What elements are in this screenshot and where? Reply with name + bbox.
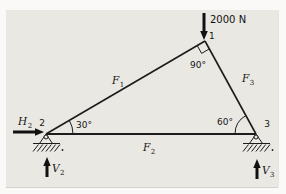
reaction-v2-arrow: [43, 157, 50, 177]
reaction-h2-label: H2: [17, 115, 32, 130]
ground-hatching-right: [243, 145, 270, 152]
ground-hatching-left: [33, 145, 60, 152]
reaction-v3-arrow: [253, 159, 260, 179]
node-3-label: 3: [264, 119, 270, 129]
reaction-v3-label: V3: [262, 164, 275, 179]
member-f3-label: F3: [241, 72, 254, 87]
angle-60-arc: [235, 116, 246, 134]
node-2-label: 2: [39, 118, 45, 128]
member-f1-label: F1: [111, 74, 124, 89]
member-f2-label: F2: [142, 141, 155, 156]
angle-90-label: 90°: [190, 60, 206, 70]
reaction-v2-label: V2: [52, 162, 65, 177]
member-1-2-line: [46, 41, 205, 134]
angle-30-label: 30°: [76, 120, 92, 130]
angle-30-arc: [69, 120, 73, 134]
pin-support-right: [243, 134, 273, 152]
truss-diagram: 2000 N 90° 30° 60° 1 2 3 F1 F2 F3 H2: [0, 0, 286, 194]
pin-support-left: [33, 134, 63, 152]
angle-60-label: 60°: [217, 117, 233, 127]
applied-force-label: 2000 N: [210, 14, 246, 25]
figure-frame: 2000 N 90° 30° 60° 1 2 3 F1 F2 F3 H2: [0, 0, 286, 194]
applied-force-arrow: [200, 13, 208, 40]
node-1-label: 1: [209, 31, 215, 41]
